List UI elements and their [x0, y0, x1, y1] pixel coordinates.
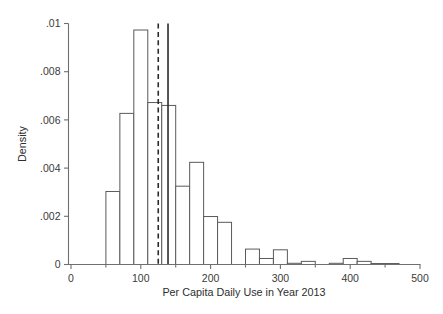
- x-tick-label: 300: [272, 272, 290, 284]
- histogram-bar: [148, 103, 162, 265]
- x-tick-label: 200: [202, 272, 220, 284]
- histogram-bar: [273, 250, 287, 265]
- y-tick-label: .004: [40, 162, 61, 174]
- histogram-bar: [106, 191, 120, 264]
- x-axis-label: Per Capita Daily Use in Year 2013: [162, 286, 325, 298]
- figure-background: [0, 0, 443, 314]
- histogram-bar: [259, 258, 273, 264]
- y-axis-label: Density: [16, 125, 28, 162]
- x-tick-label: 400: [341, 272, 359, 284]
- histogram-figure: 0100200300400500 0.002.004.006.008.01 Pe…: [0, 0, 443, 314]
- histogram-bar: [134, 30, 148, 264]
- histogram-bar: [120, 113, 134, 264]
- histogram-bar: [343, 258, 357, 264]
- histogram-bar: [218, 222, 232, 264]
- x-tick-label: 500: [411, 272, 429, 284]
- histogram-canvas: 0100200300400500 0.002.004.006.008.01 Pe…: [0, 0, 443, 314]
- y-tick-label: .008: [40, 65, 61, 77]
- histogram-bar: [246, 249, 260, 264]
- histogram-bar: [190, 162, 204, 264]
- y-tick-label: 0: [55, 258, 61, 270]
- x-tick-label: 100: [132, 272, 150, 284]
- y-tick-label: .002: [40, 210, 61, 222]
- y-tick-label: .01: [46, 17, 61, 29]
- histogram-bar: [204, 217, 218, 265]
- y-tick-label: .006: [40, 114, 61, 126]
- histogram-bar: [176, 186, 190, 264]
- x-tick-label: 0: [68, 272, 74, 284]
